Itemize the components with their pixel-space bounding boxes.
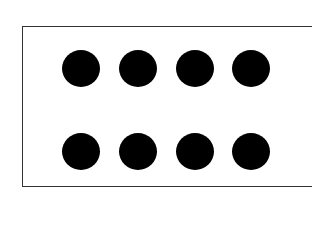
dot-r2-c3: [176, 133, 214, 170]
dot-r1-c1: [62, 50, 100, 87]
dot-r2-c1: [62, 133, 100, 170]
dot-r1-c3: [176, 50, 214, 87]
dot-r1-c4: [232, 50, 270, 87]
dot-r2-c4: [232, 133, 270, 170]
dot-r1-c2: [119, 50, 157, 87]
dot-r2-c2: [119, 133, 157, 170]
